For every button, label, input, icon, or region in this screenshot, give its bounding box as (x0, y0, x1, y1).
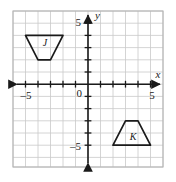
shape-label-k: K (129, 131, 138, 142)
coordinate-grid-svg: y x 5 0 –5 –5 5 J K (0, 0, 176, 182)
coordinate-plane-figure: y x 5 0 –5 –5 5 J K (0, 0, 176, 182)
y-tick-label-neg5: –5 (69, 140, 82, 152)
y-axis-label: y (94, 9, 100, 21)
y-tick-label-5: 5 (76, 16, 82, 28)
x-axis-label: x (155, 68, 161, 80)
x-tick-label-5: 5 (149, 89, 155, 101)
x-tick-label-neg5: –5 (20, 89, 33, 101)
shape-label-j: J (43, 37, 48, 48)
origin-label: 0 (77, 87, 83, 99)
